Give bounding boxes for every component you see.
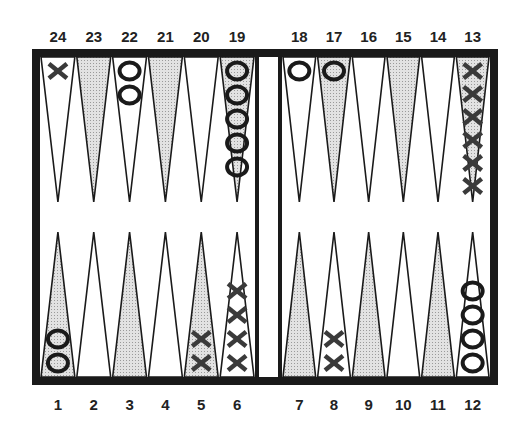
point-label-20: 20 <box>186 28 216 45</box>
point-label-18: 18 <box>284 28 314 45</box>
point-label-5: 5 <box>186 396 216 413</box>
point-15[interactable] <box>387 57 420 202</box>
point-3[interactable] <box>113 232 147 377</box>
point-14[interactable] <box>422 57 455 202</box>
checkers-layer <box>48 63 483 372</box>
point-23[interactable] <box>77 57 111 202</box>
point-label-24: 24 <box>43 28 73 45</box>
point-label-14: 14 <box>423 28 453 45</box>
point-label-23: 23 <box>79 28 109 45</box>
point-13[interactable] <box>456 57 489 202</box>
point-label-16: 16 <box>354 28 384 45</box>
point-10[interactable] <box>387 232 420 377</box>
point-21[interactable] <box>149 57 183 202</box>
point-24[interactable] <box>41 57 75 202</box>
backgammon-board <box>0 0 520 427</box>
point-11[interactable] <box>422 232 455 377</box>
point-label-19: 19 <box>222 28 252 45</box>
point-16[interactable] <box>352 57 385 202</box>
point-6[interactable] <box>220 232 254 377</box>
point-label-6: 6 <box>222 396 252 413</box>
point-label-12: 12 <box>458 396 488 413</box>
point-5[interactable] <box>184 232 218 377</box>
point-label-8: 8 <box>319 396 349 413</box>
point-20[interactable] <box>184 57 218 202</box>
point-label-1: 1 <box>43 396 73 413</box>
point-label-9: 9 <box>354 396 384 413</box>
point-label-15: 15 <box>388 28 418 45</box>
point-label-13: 13 <box>458 28 488 45</box>
point-8[interactable] <box>318 232 351 377</box>
point-label-11: 11 <box>423 396 453 413</box>
point-7[interactable] <box>283 232 316 377</box>
point-label-17: 17 <box>319 28 349 45</box>
point-label-22: 22 <box>115 28 145 45</box>
point-9[interactable] <box>352 232 385 377</box>
point-label-4: 4 <box>150 396 180 413</box>
point-label-3: 3 <box>115 396 145 413</box>
point-label-21: 21 <box>150 28 180 45</box>
point-4[interactable] <box>149 232 183 377</box>
point-label-7: 7 <box>284 396 314 413</box>
point-2[interactable] <box>77 232 111 377</box>
points-layer <box>41 57 489 377</box>
point-label-2: 2 <box>79 396 109 413</box>
point-label-10: 10 <box>388 396 418 413</box>
